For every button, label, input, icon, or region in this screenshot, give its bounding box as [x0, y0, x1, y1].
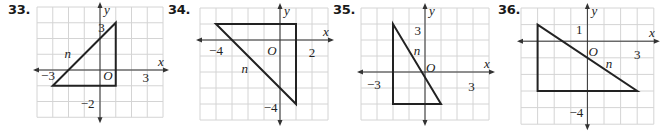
tick-label: 3: [634, 47, 641, 62]
tick-label: 1: [576, 22, 583, 37]
arrow-up-icon: [585, 3, 590, 9]
arrow-left-icon: [517, 39, 523, 44]
x-axis-label: x: [648, 25, 655, 40]
origin-label: O: [589, 44, 599, 59]
problem-36: 36. xyOn13−4: [0, 0, 663, 134]
coordinate-graph: xyOn13−4: [0, 0, 663, 134]
arrow-down-icon: [585, 124, 590, 130]
hypotenuse-label: n: [606, 56, 613, 71]
y-axis-label: y: [590, 3, 598, 18]
tick-label: −4: [569, 105, 583, 120]
